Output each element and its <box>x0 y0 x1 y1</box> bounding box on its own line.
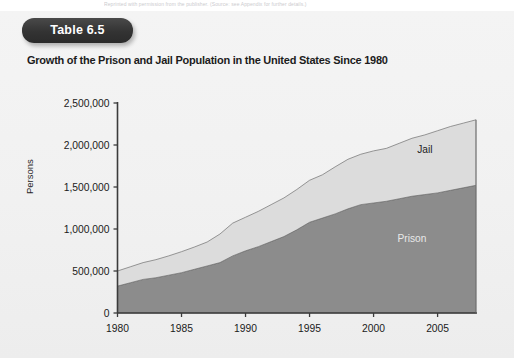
svg-text:1985: 1985 <box>170 323 193 334</box>
svg-text:500,000: 500,000 <box>72 266 109 277</box>
svg-text:2,500,000: 2,500,000 <box>64 98 110 109</box>
svg-text:1980: 1980 <box>106 323 129 334</box>
svg-text:2005: 2005 <box>426 323 449 334</box>
stacked-area-chart: 0500,0001,000,0001,500,0002,000,0002,500… <box>0 0 514 358</box>
svg-text:0: 0 <box>104 308 110 319</box>
svg-text:1,000,000: 1,000,000 <box>64 224 110 235</box>
svg-text:1,500,000: 1,500,000 <box>64 182 110 193</box>
svg-text:2000: 2000 <box>362 323 385 334</box>
svg-text:1990: 1990 <box>234 323 257 334</box>
series-label-prison: Prison <box>398 233 427 244</box>
figure-page: Reprinted with permission from the publi… <box>0 0 514 358</box>
series-label-jail: Jail <box>417 144 432 155</box>
svg-text:1995: 1995 <box>298 323 321 334</box>
svg-text:2,000,000: 2,000,000 <box>64 140 110 151</box>
